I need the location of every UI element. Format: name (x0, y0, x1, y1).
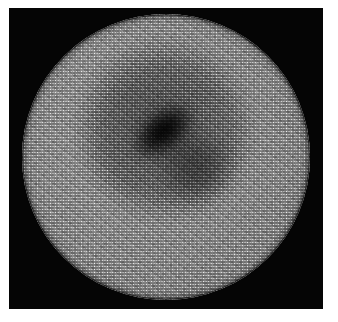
background-plate (9, 8, 323, 309)
cell-speckle-noise (22, 14, 310, 300)
aperture-disc (22, 14, 310, 300)
image-canvas: Lenslet array aperture image (0, 0, 338, 322)
